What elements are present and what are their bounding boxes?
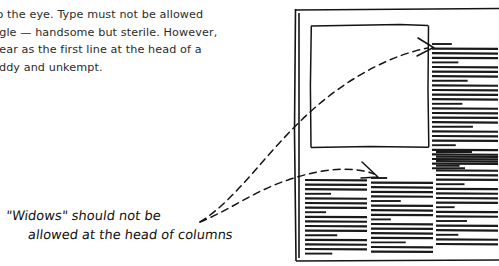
column-lower-middle-column bbox=[371, 178, 433, 252]
column-upper-right-column bbox=[432, 44, 498, 168]
column-lower-right-column bbox=[436, 152, 498, 244]
image-placeholder-box bbox=[310, 25, 428, 148]
text-line-columns bbox=[305, 44, 498, 254]
page-layout-diagram bbox=[0, 0, 499, 266]
annotation-arrow-bottom bbox=[200, 162, 378, 222]
column-lower-left-column bbox=[305, 180, 367, 254]
